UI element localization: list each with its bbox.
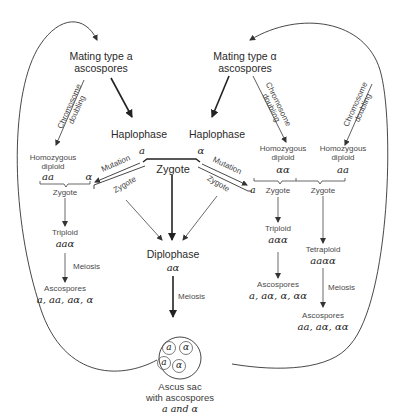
- haplophase-right-label: Haplophase: [182, 128, 252, 140]
- diplophase-genotype: aα: [160, 262, 186, 274]
- right-homozygous-diploid-a-label: Homozygousdiploid: [310, 144, 376, 162]
- ascus-spore-4: α: [174, 360, 184, 370]
- center-meiosis-label: Meiosis: [178, 292, 218, 301]
- right-triploid-ascospores-label: Ascospores: [248, 280, 308, 289]
- tetraploid-ascospores-genotypes: aa, aα, αα: [283, 321, 363, 333]
- left-zygote-label: Zygote: [45, 188, 85, 197]
- right-triploid-genotype: aαα: [258, 234, 298, 246]
- ascus-spore-2: α: [181, 342, 191, 352]
- right-triploid-ascospores-genotypes: a, aα, α, αα: [240, 290, 316, 302]
- right-diploid-a-genotype: aa: [333, 164, 353, 176]
- diplophase-label: Diplophase: [140, 248, 206, 260]
- right-triploid-label: Triploid: [253, 224, 303, 233]
- left-diploid-genotype: aa: [38, 171, 58, 183]
- mating-type-a-label: Mating type aascospores: [56, 50, 146, 74]
- left-cycle-curve: [17, 22, 157, 371]
- ascus-caption: Ascus sac with ascospores a and α: [130, 382, 230, 414]
- right-diploid-alpha-genotype: αα: [270, 164, 296, 176]
- left-triploid-genotype: aaα: [45, 238, 85, 250]
- left-ascospores-genotypes: a, aa, aα, α: [25, 294, 105, 306]
- left-ascospores-label: Ascospores: [35, 284, 95, 293]
- left-homozygous-diploid-label: Homozygousdiploid: [20, 153, 86, 171]
- tetraploid-ascospores-label: Ascospores: [293, 311, 353, 320]
- ascus-spore-3: a: [159, 357, 169, 367]
- mating-type-alpha-label: Mating type αascospores: [200, 50, 290, 74]
- right-meiosis-label: Meiosis: [328, 283, 368, 292]
- haplophase-left-type: a: [136, 145, 148, 157]
- left-triploid-label: Triploid: [40, 228, 90, 237]
- center-zygote-label: Zygote: [148, 163, 198, 176]
- haplophase-right-type: α: [195, 145, 207, 157]
- tetraploid-label: Tetraploid: [298, 245, 348, 254]
- ascus-spore-1: a: [164, 342, 174, 352]
- right-mutant-a: a: [248, 185, 258, 195]
- left-meiosis-label: Meiosis: [73, 262, 113, 271]
- tetraploid-genotype: aaαα: [298, 255, 348, 267]
- haplophase-left-label: Haplophase: [104, 128, 174, 140]
- right-zygote1-label: Zygote: [258, 186, 298, 195]
- right-homozygous-diploid-alpha-label: Homozygousdiploid: [250, 144, 316, 162]
- left-mutant-alpha: α: [83, 171, 95, 183]
- right-zygote2-label: Zygote: [303, 186, 343, 195]
